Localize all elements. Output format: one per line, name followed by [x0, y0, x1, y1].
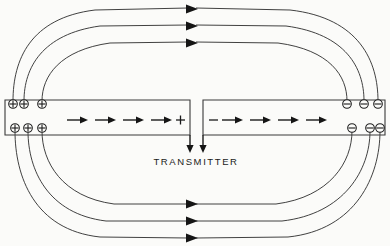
transmitter-feed-arrows — [186, 135, 206, 153]
current-arrow — [222, 117, 243, 124]
current-arrow — [95, 117, 116, 124]
feed-polarity-plus — [176, 116, 185, 125]
field-arrowhead-top-middle — [186, 22, 198, 31]
bottom-field-lines — [15, 131, 380, 242]
terminal-minus — [374, 100, 383, 109]
field-line-bottom-middle — [28, 131, 188, 221]
top-field-lines — [13, 5, 378, 101]
bar-current-arrows-right — [222, 117, 327, 124]
terminal-plus — [38, 124, 47, 133]
terminal-minus — [376, 124, 385, 133]
conductor-bar-left — [5, 100, 190, 135]
current-arrow — [151, 117, 172, 124]
current-arrow — [67, 117, 88, 124]
conductor-bar-right — [203, 100, 385, 135]
current-arrow — [306, 117, 327, 124]
diagram-page: TRANSMITTER — [0, 0, 390, 246]
terminal-minus — [360, 100, 369, 109]
field-line-top-outer — [13, 8, 188, 101]
terminal-plus — [24, 124, 33, 133]
field-line-bottom-middle-right — [196, 131, 370, 221]
field-arrowhead-bottom-middle — [186, 217, 198, 226]
field-line-top-middle-right — [196, 25, 364, 101]
terminals-right-bottom — [348, 124, 385, 133]
bar-left-outline — [5, 100, 190, 135]
transmitter-label: TRANSMITTER — [153, 156, 238, 167]
terminal-plus — [38, 100, 47, 109]
terminals-left-top — [9, 100, 47, 109]
current-arrow — [123, 117, 144, 124]
terminals-left-bottom — [11, 124, 47, 133]
field-line-top-middle — [24, 25, 188, 101]
current-arrow — [250, 117, 271, 124]
field-line-top-inner — [42, 42, 188, 101]
terminals-right-top — [343, 100, 383, 109]
feed-arrowhead-left — [186, 145, 193, 153]
field-line-top-outer-right — [196, 8, 378, 101]
feed-arrowhead-right — [199, 145, 206, 153]
terminal-plus — [20, 100, 29, 109]
terminal-minus — [348, 124, 357, 133]
bar-current-arrows-left — [67, 117, 172, 124]
field-arrowhead-top-outer — [186, 5, 198, 14]
field-arrowhead-bottom-inner — [186, 200, 198, 209]
field-arrowhead-bottom-outer — [186, 234, 198, 243]
current-arrow — [278, 117, 299, 124]
field-line-bottom-inner-right — [196, 131, 352, 204]
terminal-minus — [366, 124, 375, 133]
field-line-bottom-outer — [15, 131, 188, 238]
terminal-plus — [11, 124, 20, 133]
field-line-top-inner-right — [196, 42, 347, 101]
transmitter-field-diagram: TRANSMITTER — [0, 0, 390, 246]
terminal-plus — [9, 100, 18, 109]
bar-right-outline — [203, 100, 385, 135]
field-arrowhead-top-inner — [186, 39, 198, 48]
terminal-minus — [343, 100, 352, 109]
field-line-bottom-inner — [42, 131, 188, 204]
